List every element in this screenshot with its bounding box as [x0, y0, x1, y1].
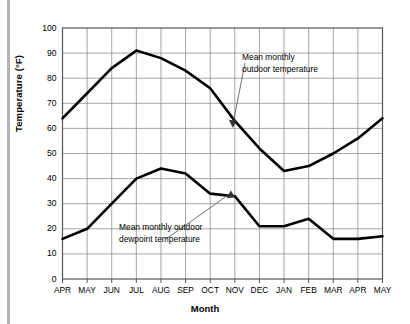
y-tick-label: 90 — [33, 48, 57, 58]
data-series-group — [63, 51, 383, 239]
y-tick-label: 70 — [33, 98, 57, 108]
y-tick-label: 80 — [33, 73, 57, 83]
y-tick-label: 0 — [33, 274, 57, 284]
y-tick-label: 50 — [33, 148, 57, 158]
annotation-dewpoint-line2: dewpoint temperature — [119, 234, 202, 246]
y-tick-label: 30 — [33, 198, 57, 208]
line-chart-canvas — [0, 0, 410, 324]
y-tick-label: 10 — [33, 248, 57, 258]
annotation-dewpoint: Mean monthly outdoor dewpoint temperatur… — [119, 222, 202, 245]
y-tick-label: 60 — [33, 123, 57, 133]
annotation-temperature: Mean monthly outdoor temperature — [242, 52, 318, 75]
x-axis-title: Month — [0, 303, 410, 314]
chart-figure: 0102030405060708090100 APRMAYJUNJULAUGSE… — [0, 0, 410, 324]
annotation-leader-lines — [166, 63, 245, 239]
series-line-0 — [63, 51, 383, 171]
annotation-temperature-line1: Mean monthly — [242, 52, 318, 64]
y-tick-label: 40 — [33, 173, 57, 183]
x-tick-label: MAY — [368, 285, 398, 295]
axis-tick-marks — [63, 279, 383, 283]
y-tick-label: 100 — [33, 23, 57, 33]
y-tick-label: 20 — [33, 223, 57, 233]
annotation-dewpoint-line1: Mean monthly outdoor — [119, 222, 202, 234]
annotation-temperature-line2: outdoor temperature — [242, 64, 318, 76]
y-axis-title: Temperature (°F) — [13, 12, 24, 132]
